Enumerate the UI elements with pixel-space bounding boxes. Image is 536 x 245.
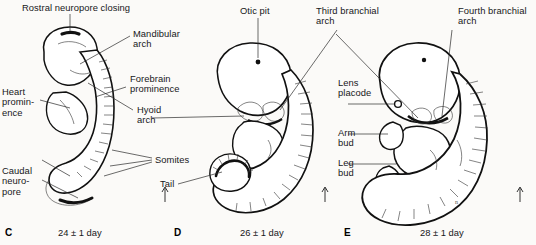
label-third-branchial-arch: Third branchial arch [316, 6, 379, 27]
figure-drawing: n [0, 0, 536, 245]
label-forebrain-prominence: Forebrain prominence [130, 74, 180, 95]
panel-letter-c: C [5, 227, 12, 238]
label-otic-pit: Otic pit [240, 6, 270, 16]
label-arm-bud: Arm bud [338, 128, 355, 149]
caption-panel-c: 24 ± 1 day [58, 227, 102, 238]
embryo-c [44, 27, 114, 205]
label-hyoid-arch: Hyoid arch [137, 105, 161, 126]
label-rostral-neuropore-closing: Rostral neuropore closing [22, 3, 130, 13]
caption-panel-e: 28 ± 1 day [420, 227, 464, 238]
label-mandibular-arch: Mandibular arch [133, 29, 180, 50]
label-fourth-branchial-arch: Fourth branchial arch [458, 6, 527, 27]
embryo-d [210, 43, 313, 213]
label-heart-prominence: Heart promin- ence [2, 87, 34, 118]
label-somites: Somites [155, 155, 189, 165]
caption-panel-d: 26 ± 1 day [240, 227, 284, 238]
panel-letter-d: D [174, 227, 181, 238]
label-caudal-neuropore: Caudal neuro- pore [2, 166, 32, 197]
svg-text:n: n [455, 199, 458, 205]
label-tail: Tail [160, 179, 174, 189]
label-leg-bud: Leg bud [338, 158, 354, 179]
embryo-figure: n [0, 0, 536, 245]
panel-letter-e: E [344, 227, 351, 238]
label-lens-placode: Lens placode [338, 78, 371, 99]
